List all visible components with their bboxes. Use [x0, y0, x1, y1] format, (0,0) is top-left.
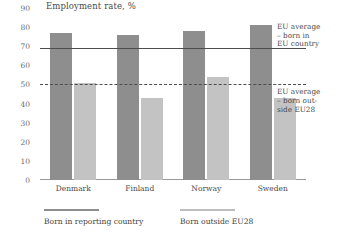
annotation-eu-average-born-outside-eu28: EU average – born out- side EU28 [277, 88, 320, 114]
x-axis-label-norway: Norway [173, 184, 240, 193]
x-axis-label-sweden: Sweden [240, 184, 307, 193]
y-axis-tick-50: 50 [4, 80, 30, 89]
y-axis-tick-10: 10 [4, 156, 30, 165]
bar-denmark-born-in-country [50, 33, 72, 180]
y-axis-tick-80: 80 [4, 23, 30, 32]
bar-denmark-born-outside-eu28 [74, 83, 96, 180]
annotation-eu-average-born-in-eu: EU average – born in EU country [277, 23, 320, 49]
bar-finland-born-in-country [117, 35, 139, 180]
y-axis-tick-70: 70 [4, 42, 30, 51]
y-axis-tick-20: 20 [4, 137, 30, 146]
plot-area: DenmarkFinlandNorwaySweden [40, 8, 306, 180]
employment-rate-bar-chart: Employment rate, % 9080706050403020100 D… [0, 0, 338, 244]
bar-norway-born-outside-eu28 [207, 77, 229, 180]
legend-swatch-1 [180, 209, 235, 211]
reference-line-eu-average-born-in-eu [40, 48, 306, 49]
legend-label-1: Born outside EU28 [180, 217, 253, 226]
y-axis-tick-60: 60 [4, 61, 30, 70]
bar-finland-born-outside-eu28 [141, 98, 163, 180]
y-axis-tick-90: 90 [4, 4, 30, 13]
bar-group-finland [117, 8, 163, 180]
x-axis-label-denmark: Denmark [40, 184, 107, 193]
y-axis-tick-0: 0 [4, 176, 30, 185]
reference-line-eu-average-born-outside-eu28 [40, 84, 306, 85]
bar-group-denmark [50, 8, 96, 180]
bar-norway-born-in-country [183, 31, 205, 180]
y-axis-tick-30: 30 [4, 118, 30, 127]
x-axis-label-finland: Finland [107, 184, 174, 193]
chart-legend: Born in reporting countryBorn outside EU… [0, 209, 338, 244]
legend-swatch-0 [44, 209, 99, 211]
legend-label-0: Born in reporting country [44, 217, 143, 226]
bar-group-norway [183, 8, 229, 180]
y-axis-tick-40: 40 [4, 99, 30, 108]
